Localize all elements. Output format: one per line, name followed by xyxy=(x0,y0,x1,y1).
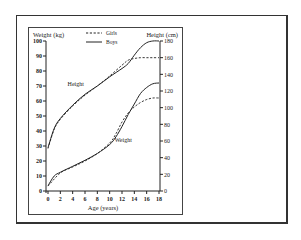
legend-label-girls: Girls xyxy=(106,30,117,36)
right-tick-label: 40 xyxy=(164,155,170,161)
girls-weight-curve xyxy=(48,98,159,186)
right-axis-title: Height (cm) xyxy=(146,31,178,39)
x-tick-label: 4 xyxy=(71,196,74,202)
x-tick-label: 16 xyxy=(144,196,150,202)
boys-height-curve xyxy=(48,41,159,148)
x-tick-label: 14 xyxy=(131,196,137,202)
right-tick-label: 80 xyxy=(164,122,170,128)
legend-label-boys: Boys xyxy=(106,39,117,45)
x-tick-label: 8 xyxy=(96,196,99,202)
annotations: HeightWeight xyxy=(68,81,133,143)
left-tick-label: 20 xyxy=(36,158,42,164)
left-tick-label: 80 xyxy=(36,68,42,74)
left-tick-label: 10 xyxy=(36,173,42,179)
girls-height-curve xyxy=(48,58,159,149)
right-tick-label: 160 xyxy=(164,55,173,61)
x-tick-label: 18 xyxy=(156,196,162,202)
right-tick-label: 60 xyxy=(164,138,170,144)
left-tick-label: 60 xyxy=(36,98,42,104)
x-tick-label: 6 xyxy=(84,196,87,202)
right-tick-label: 20 xyxy=(164,172,170,178)
x-axis-title: Age (years) xyxy=(88,204,119,212)
right-tick-label: 100 xyxy=(164,105,173,111)
left-tick-label: 40 xyxy=(36,128,42,134)
left-tick-label: 90 xyxy=(36,53,42,59)
x-tick-label: 12 xyxy=(119,196,125,202)
curves xyxy=(48,41,159,186)
x-tick-label: 2 xyxy=(59,196,62,202)
right-tick-label: 140 xyxy=(164,72,173,78)
x-tick-label: 10 xyxy=(107,196,113,202)
left-tick-label: 0 xyxy=(39,188,42,194)
left-tick-label: 70 xyxy=(36,83,42,89)
right-tick-label: 180 xyxy=(164,38,173,44)
left-tick-label: 30 xyxy=(36,143,42,149)
left-tick-label: 50 xyxy=(36,113,42,119)
legend: GirlsBoys xyxy=(86,30,117,45)
x-tick-label: 0 xyxy=(47,196,50,202)
growth-chart: Weight (kg) Height (cm) Age (years) Girl… xyxy=(0,0,301,240)
annotation-weight: Weight xyxy=(115,137,133,143)
annotation-height: Height xyxy=(68,81,85,87)
left-tick-label: 100 xyxy=(33,38,42,44)
right-tick-label: 0 xyxy=(164,188,167,194)
right-tick-label: 120 xyxy=(164,88,173,94)
axes: 0102030405060708090100020406080100120140… xyxy=(33,38,173,202)
